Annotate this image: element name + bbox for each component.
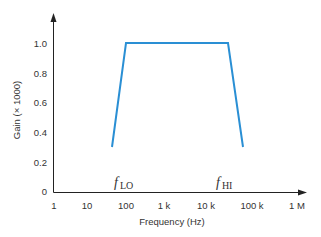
- y-axis-label: Gain (× 1000): [11, 81, 22, 139]
- f-lo-label: fLO: [114, 175, 133, 191]
- x-axis-label: Frequency (Hz): [139, 216, 204, 227]
- x-tick: 10: [82, 200, 93, 211]
- x-tick: 1: [51, 200, 56, 211]
- y-tick: 0: [42, 186, 47, 197]
- y-axis-arrow-icon: [51, 13, 57, 22]
- gain-curve: [112, 43, 243, 147]
- x-tick: 1 k: [158, 200, 171, 211]
- y-tick-labels: 1.0 0.8 0.6 0.4 0.2 0: [34, 38, 47, 198]
- y-tick: 0.8: [34, 68, 47, 79]
- x-tick: 1 M: [289, 200, 305, 211]
- x-tick-labels: 1 10 100 1 k 10 k 100 k 1 M: [51, 200, 305, 211]
- y-tick: 1.0: [34, 38, 47, 49]
- y-tick: 0.6: [34, 97, 47, 108]
- f-hi-subscript: HI: [222, 180, 233, 191]
- f-hi-label: fHI: [216, 175, 232, 191]
- x-tick: 100 k: [240, 200, 263, 211]
- y-tick: 0.2: [34, 157, 47, 168]
- y-tick: 0.4: [34, 127, 47, 138]
- axes: [51, 13, 308, 196]
- gain-vs-frequency-chart: 1.0 0.8 0.6 0.4 0.2 0 Gain (× 1000) 1 10…: [0, 0, 321, 237]
- x-tick: 10 k: [197, 200, 215, 211]
- x-axis-arrow-icon: [298, 190, 307, 196]
- f-lo-subscript: LO: [120, 180, 133, 191]
- x-tick: 100: [118, 200, 134, 211]
